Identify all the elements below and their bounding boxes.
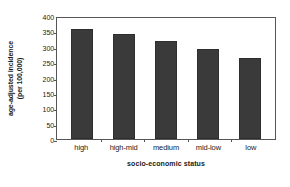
bar-medium <box>155 41 177 139</box>
y-axis-tick-label: 150 <box>28 90 54 97</box>
y-axis-tick-label: 0 <box>28 137 54 144</box>
x-axis-tick-mark <box>188 139 189 142</box>
y-axis-tick-label: 50 <box>28 121 54 128</box>
y-axis-title-line2: (per 100,000) <box>16 41 25 116</box>
bar-high <box>71 29 93 139</box>
plot-area <box>56 17 276 140</box>
x-axis-tick-label: low <box>230 143 272 155</box>
x-axis-tick-label: mid-low <box>187 143 229 155</box>
bar-low <box>239 58 261 139</box>
x-axis-tick-label: high-mid <box>102 143 144 155</box>
bar-mid-low <box>197 49 219 139</box>
y-axis-tick-labels: 400350300250200150100500 <box>28 17 54 140</box>
y-axis-tick-mark <box>54 141 57 142</box>
x-axis-tick-labels: highhigh-midmediummid-lowlow <box>56 143 276 155</box>
y-axis-tick-label: 100 <box>28 106 54 113</box>
bar-chart-figure: age-adjusted incidence (per 100,000) 400… <box>0 0 290 187</box>
y-axis-tick-label: 250 <box>28 60 54 67</box>
x-axis-tick-mark <box>144 139 145 142</box>
bar-slot <box>103 18 145 139</box>
bar-slot <box>61 18 103 139</box>
bar-slot <box>145 18 187 139</box>
x-axis-tick-label: high <box>60 143 102 155</box>
y-axis-tick-label: 300 <box>28 44 54 51</box>
x-axis-tick-mark <box>101 139 102 142</box>
x-axis-tick-label: medium <box>145 143 187 155</box>
bar-group <box>57 18 275 139</box>
x-axis-title: socio-economic status <box>56 160 276 167</box>
y-axis-tick-label: 350 <box>28 29 54 36</box>
y-axis-tick-label: 400 <box>28 14 54 21</box>
y-axis-title: age-adjusted incidence (per 100,000) <box>3 17 29 140</box>
bar-slot <box>229 18 271 139</box>
x-axis-tick-mark <box>231 139 232 142</box>
bar-high-mid <box>113 34 135 139</box>
y-axis-title-line1: age-adjusted incidence <box>8 41 15 116</box>
y-axis-tick-label: 200 <box>28 75 54 82</box>
bar-slot <box>187 18 229 139</box>
